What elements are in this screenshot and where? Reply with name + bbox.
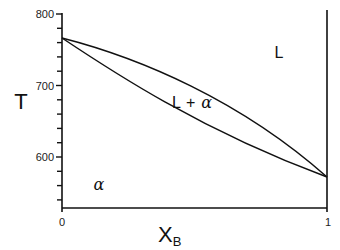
region-label-two-phase-L: L <box>172 94 181 111</box>
x-axis-title-subscript: B <box>173 234 182 249</box>
x-axis-title-main: X <box>158 222 173 247</box>
region-label-liquid: L <box>275 44 284 61</box>
phase-diagram: 800 700 600 0 1 T XB L L+α α <box>0 0 340 250</box>
x-tick-label-1: 1 <box>325 216 331 228</box>
region-label-two-phase-alpha: α <box>201 93 212 112</box>
region-label-two-phase: L+α <box>172 93 212 112</box>
region-label-two-phase-plus: + <box>186 94 195 111</box>
y-ticks <box>56 14 62 200</box>
y-axis-title: T <box>14 89 27 114</box>
y-tick-label-700: 700 <box>36 80 54 92</box>
x-axis-title: XB <box>158 222 181 249</box>
y-tick-label-800: 800 <box>36 8 54 20</box>
region-label-solid-alpha: α <box>94 175 105 194</box>
y-tick-label-600: 600 <box>36 151 54 163</box>
x-tick-label-0: 0 <box>59 216 65 228</box>
